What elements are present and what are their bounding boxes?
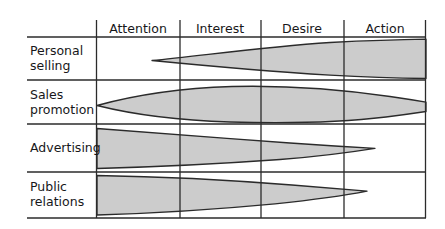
band-public-relations: [97, 176, 367, 216]
column-header-attention: Attention: [109, 21, 167, 36]
row-label-advertising-line1: Advertising: [30, 140, 101, 155]
row-label-public-relations-line1: Public: [30, 179, 67, 194]
column-header-action: Action: [365, 21, 404, 36]
row-label-sales-promotion-line2: promotion: [30, 102, 94, 117]
band-advertising: [97, 129, 375, 169]
row-label-sales-promotion-line1: Sales: [30, 87, 63, 102]
row-label-personal-selling-line1: Personal: [30, 43, 83, 58]
column-header-desire: Desire: [282, 21, 322, 36]
aida-promotion-matrix-figure: Attention Interest Desire Action Persona…: [0, 0, 445, 229]
matrix-diagram-canvas: Attention Interest Desire Action Persona…: [0, 0, 445, 229]
row-label-personal-selling-line2: selling: [30, 58, 70, 73]
row-label-public-relations-line2: relations: [30, 194, 84, 209]
band-personal-selling: [152, 39, 426, 78]
column-header-interest: Interest: [196, 21, 244, 36]
